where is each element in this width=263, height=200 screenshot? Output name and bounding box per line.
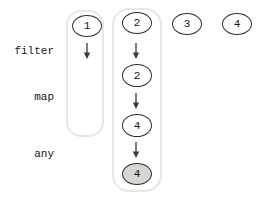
arrow-down-icon [81, 42, 93, 60]
lazy-evaluation-pipeline-diagram: filter map any 1 2 3 4 2 4 4 [0, 0, 263, 200]
arrow-down-icon [130, 42, 142, 60]
input-value-node-2: 2 [122, 12, 152, 34]
after-map-value-node: 4 [122, 114, 152, 137]
input-value-node-1: 1 [72, 15, 102, 37]
row-label-map: map [8, 91, 54, 104]
input-value-node-4: 4 [222, 13, 252, 35]
arrow-down-icon [130, 92, 142, 110]
any-result-node: 4 [122, 163, 152, 185]
row-label-any: any [8, 148, 54, 161]
row-label-filter: filter [8, 45, 54, 58]
after-filter-value-node: 2 [122, 64, 152, 87]
input-value-node-3: 3 [172, 13, 202, 35]
arrow-down-icon [130, 141, 142, 159]
